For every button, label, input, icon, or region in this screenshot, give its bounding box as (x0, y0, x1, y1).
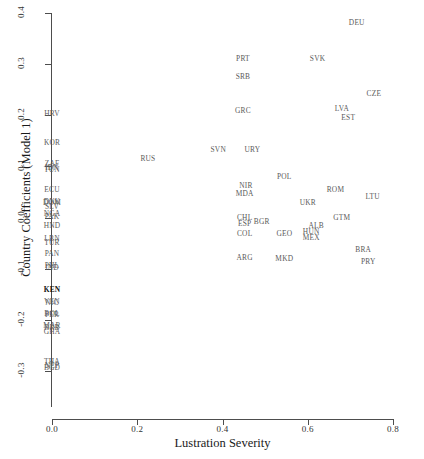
data-point-label: NIC (45, 298, 58, 307)
data-point-label: MKD (275, 253, 293, 262)
data-point-label: DEU (349, 18, 365, 27)
data-point-label: ARG (237, 252, 253, 261)
data-point-label: TUN (44, 165, 60, 174)
data-point-label: ESP (238, 218, 251, 227)
y-tick-label: 0.4 (16, 0, 26, 33)
data-point-label: SRB (236, 71, 251, 80)
data-point-label: ECU (44, 185, 59, 194)
data-point-label: SVK (310, 54, 325, 63)
data-point-label: LVA (335, 104, 349, 113)
data-point-label: BRA (355, 245, 371, 254)
y-tick (45, 13, 51, 14)
data-point-label: PRY (361, 257, 376, 266)
data-point-label: MEX (303, 233, 320, 242)
data-point-label: BGD (44, 362, 60, 371)
data-point-label: GHA (44, 326, 61, 335)
data-point-label: IND (45, 263, 59, 272)
data-point-label: UKR (300, 198, 316, 207)
data-point-label: PAN (45, 248, 60, 257)
data-point-label: LTU (365, 191, 379, 200)
data-point-label: HRV (44, 108, 60, 117)
data-point-label: PER (45, 310, 59, 319)
x-tick-label: 0.2 (117, 424, 157, 434)
data-point-label: BGR (254, 216, 270, 225)
y-tick-label: -0.3 (16, 349, 26, 391)
data-point-label: KOR (44, 138, 60, 147)
data-point-label: GRC (235, 106, 251, 115)
y-tick (45, 64, 51, 65)
x-tick-label: 0.8 (373, 424, 413, 434)
data-point-label: RUS (140, 153, 155, 162)
data-point-label: MDA (236, 189, 254, 198)
data-point-label: SVN (211, 144, 226, 153)
data-point-label: ROM (327, 185, 344, 194)
scatter-plot: 0.40.30.20.10.0-0.1-0.2-0.3 0.00.20.40.6… (0, 0, 424, 459)
data-point-label: PRT (236, 54, 250, 63)
y-tick-label: 0.3 (16, 42, 26, 84)
data-point-label: URY (244, 144, 260, 153)
data-point-label: EST (341, 113, 355, 122)
data-point-label: CZE (367, 89, 382, 98)
data-point-label: COL (237, 228, 252, 237)
y-axis-title: Country Coefficients (Model 1) (19, 88, 34, 308)
x-tick-label: 0.6 (288, 424, 328, 434)
data-point-label: HND (44, 220, 61, 229)
data-point-label: GEO (276, 228, 292, 237)
data-point-label: GTM (333, 212, 350, 221)
data-point-label: POL (277, 171, 292, 180)
x-tick-label: 0.4 (203, 424, 243, 434)
data-point-label: PAK (45, 211, 60, 220)
data-point-label: TUR (44, 237, 59, 246)
data-point-label: KEN (44, 285, 61, 294)
x-axis-title: Lustration Severity (52, 436, 393, 451)
x-tick-label: 0.0 (32, 424, 72, 434)
